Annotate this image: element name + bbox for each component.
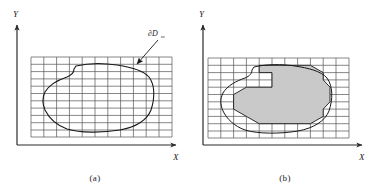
- y-axis-label-a: Y: [13, 9, 19, 19]
- domain-boundary-curve-a: [43, 64, 154, 133]
- panel-a-canvas: Y X: [0, 0, 190, 189]
- y-axis-label-b: Y: [199, 9, 205, 19]
- panel-b: Y X: [190, 0, 380, 189]
- panel-a-caption: (a): [0, 173, 190, 183]
- arrow-pointer-icon: [137, 40, 158, 64]
- boundary-label-a: ∂D: [148, 29, 158, 38]
- grid-approximation-region-b: [234, 65, 330, 123]
- x-axis-label-a: X: [172, 152, 179, 162]
- boundary-annotation-a: ∂D m: [137, 29, 165, 64]
- boundary-label-subscript-a: m: [161, 34, 165, 39]
- panel-b-caption: (b): [190, 173, 380, 183]
- panel-a: Y X: [0, 0, 190, 189]
- panel-b-canvas: Y X: [190, 0, 380, 189]
- grid-a: [31, 57, 172, 137]
- x-axis-label-b: X: [358, 152, 365, 162]
- figure-root: Y X: [0, 0, 381, 189]
